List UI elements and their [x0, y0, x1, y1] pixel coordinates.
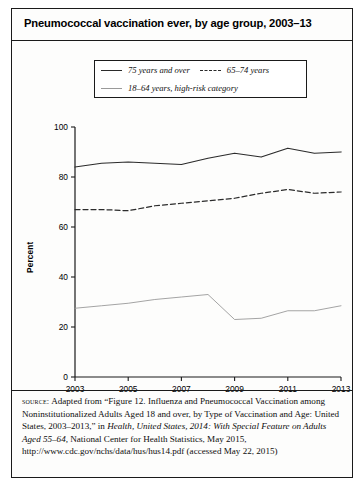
legend-item-18-64-high-risk: 18–64 years, high-risk category: [101, 83, 238, 93]
y-tick-label: 100: [54, 122, 68, 132]
line-chart-svg: 020406080100200320052007200920112013: [12, 105, 354, 395]
legend-row-bottom: 18–64 years, high-risk category: [95, 79, 306, 97]
y-tick-label: 60: [59, 222, 69, 232]
x-tick-label: 2007: [172, 384, 191, 394]
title-divider: [12, 40, 352, 41]
y-tick-label: 80: [59, 172, 69, 182]
y-axis-label: Percent: [26, 242, 35, 273]
x-tick-label: 2005: [119, 384, 138, 394]
y-tick-label: 20: [59, 322, 69, 332]
legend-item-65-74: 65–74 years: [200, 65, 269, 75]
figure-title-bar: Pneumococcal vaccination ever, by age gr…: [12, 9, 352, 40]
y-tick-label: 40: [59, 272, 69, 282]
source-note: source: Adapted from “Figure 12. Influen…: [22, 395, 344, 457]
series-line: [75, 190, 341, 211]
legend-line-solid-thin-icon: [101, 85, 122, 92]
series-line: [75, 148, 341, 167]
chart-legend: 75 years and over 65–74 years 18–64 year…: [94, 60, 307, 98]
legend-line-solid-thick-icon: [101, 67, 122, 74]
source-label: source:: [22, 397, 49, 406]
legend-row-top: 75 years and over 65–74 years: [95, 61, 306, 79]
page-title: Pneumococcal vaccination ever, by age gr…: [24, 17, 352, 29]
legend-label-65-74: 65–74 years: [227, 65, 269, 75]
source-divider: [12, 390, 352, 391]
figure-container: Pneumococcal vaccination ever, by age gr…: [11, 8, 353, 478]
legend-label-75-and-over: 75 years and over: [128, 65, 190, 75]
legend-line-dashed-icon: [200, 67, 221, 74]
x-tick-label: 2009: [225, 384, 244, 394]
x-tick-label: 2011: [279, 384, 297, 394]
y-tick-label: 0: [63, 372, 68, 382]
plot-area: Percent 02040608010020032005200720092011…: [12, 105, 354, 395]
series-line: [75, 295, 341, 320]
legend-label-18-64-high-risk: 18–64 years, high-risk category: [128, 83, 238, 93]
legend-item-75-and-over: 75 years and over: [101, 65, 190, 75]
x-tick-label: 2013: [332, 384, 351, 394]
x-tick-label: 2003: [66, 384, 85, 394]
